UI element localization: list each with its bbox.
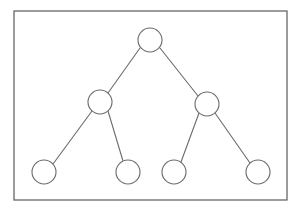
- binary-tree-diagram: [0, 0, 300, 212]
- node-circle-root[interactable]: [138, 28, 162, 52]
- tree-node-n-rr[interactable]: [246, 160, 270, 184]
- node-circle-n-ll[interactable]: [32, 160, 56, 184]
- tree-node-n-l[interactable]: [88, 90, 112, 114]
- node-circle-n-lr[interactable]: [116, 160, 140, 184]
- tree-node-n-r[interactable]: [195, 92, 219, 116]
- node-circle-n-rr[interactable]: [246, 160, 270, 184]
- tree-node-n-lr[interactable]: [116, 160, 140, 184]
- diagram-canvas: [0, 0, 300, 212]
- node-circle-n-l[interactable]: [88, 90, 112, 114]
- tree-node-root[interactable]: [138, 28, 162, 52]
- node-circle-n-r[interactable]: [195, 92, 219, 116]
- node-circle-n-rl[interactable]: [162, 160, 186, 184]
- tree-node-n-rl[interactable]: [162, 160, 186, 184]
- tree-node-n-ll[interactable]: [32, 160, 56, 184]
